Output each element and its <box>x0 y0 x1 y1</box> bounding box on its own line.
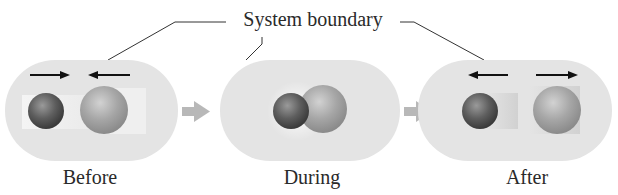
stage-after <box>418 60 612 161</box>
small-sphere <box>28 93 64 129</box>
large-sphere <box>533 86 581 134</box>
collision-diagram: System boundary Before During After <box>0 0 618 195</box>
stage-label-after: After <box>467 166 587 189</box>
large-sphere <box>80 86 128 134</box>
small-sphere <box>462 93 498 129</box>
stage-label-before: Before <box>30 166 150 189</box>
stage-before <box>5 60 178 161</box>
stage-during <box>220 60 400 161</box>
system-boundary-label: System boundary <box>228 8 398 31</box>
small-sphere <box>273 93 309 129</box>
transition-arrow-icon <box>182 101 210 122</box>
stage-label-during: During <box>252 166 372 189</box>
